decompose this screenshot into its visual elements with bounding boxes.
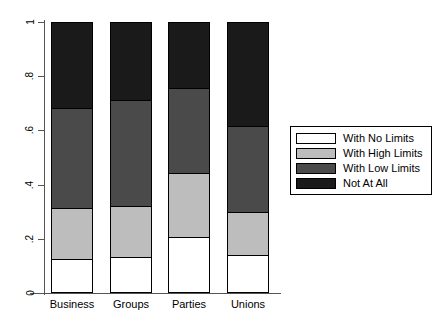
legend: With No LimitsWith High LimitsWith Low L… — [290, 126, 432, 195]
legend-item[interactable]: With High Limits — [296, 146, 426, 160]
bar-segment — [111, 207, 151, 258]
y-axis-tick-label: .6 — [0, 125, 34, 135]
bar-parties[interactable] — [168, 22, 210, 293]
bar-business[interactable] — [51, 22, 93, 293]
bar-segment — [52, 23, 92, 109]
bar-segment — [228, 127, 268, 213]
legend-item-label: With Low Limits — [343, 162, 420, 174]
y-axis-tick-label: .2 — [0, 234, 34, 244]
bar-segment — [228, 213, 268, 256]
x-axis-line — [30, 293, 281, 294]
bar-segment — [169, 174, 209, 239]
y-axis-tick — [38, 239, 44, 240]
y-axis-tick-label: .4 — [0, 180, 34, 190]
y-axis-tick — [38, 130, 44, 131]
x-axis-label-unions: Unions — [213, 297, 283, 311]
legend-swatch-icon — [296, 163, 336, 174]
stacked-bar-chart: 1.8.6.4.20 BusinessGroupsPartiesUnions W… — [0, 0, 439, 324]
legend-swatch-icon — [296, 148, 336, 159]
bar-segment — [52, 260, 92, 292]
legend-item-label: With High Limits — [343, 147, 422, 159]
bar-segment — [111, 258, 151, 292]
y-axis-tick — [38, 185, 44, 186]
bar-segment — [111, 23, 151, 101]
bar-segment — [52, 109, 92, 209]
bar-groups[interactable] — [110, 22, 152, 293]
legend-swatch-icon — [296, 133, 336, 144]
legend-item[interactable]: With Low Limits — [296, 161, 426, 175]
legend-item-label: With No Limits — [343, 132, 414, 144]
bar-segment — [169, 89, 209, 174]
legend-item-label: Not At All — [343, 177, 388, 189]
legend-item[interactable]: With No Limits — [296, 131, 426, 145]
bar-unions[interactable] — [227, 22, 269, 293]
y-axis-tick — [38, 22, 44, 23]
legend-swatch-icon — [296, 178, 336, 189]
bar-segment — [228, 23, 268, 127]
y-axis-tick-label: .8 — [0, 71, 34, 81]
y-axis-tick — [38, 76, 44, 77]
bar-segment — [228, 256, 268, 292]
bar-segment — [169, 23, 209, 89]
bar-segment — [169, 238, 209, 292]
y-axis-tick-label: 0 — [0, 288, 34, 298]
y-axis-tick-label: 1 — [0, 17, 34, 27]
legend-item[interactable]: Not At All — [296, 176, 426, 190]
plot-area — [45, 22, 273, 293]
bar-segment — [111, 101, 151, 207]
y-axis-tick — [38, 293, 44, 294]
bar-segment — [52, 209, 92, 260]
